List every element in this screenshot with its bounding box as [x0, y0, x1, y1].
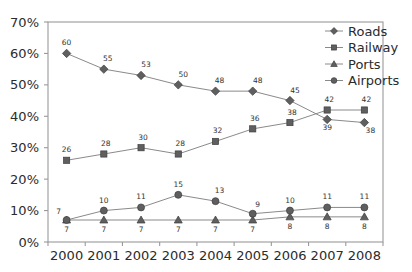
data-point-label: 10	[285, 196, 295, 205]
data-point-label: 55	[103, 54, 113, 63]
square-marker-icon	[138, 145, 144, 151]
data-point-label: 26	[62, 145, 72, 154]
data-point-label: 7	[213, 225, 218, 234]
legend-label: Airports	[348, 73, 399, 88]
circle-marker-icon	[331, 78, 337, 84]
diamond-marker-icon	[174, 81, 182, 89]
data-point-label: 48	[253, 76, 263, 85]
square-marker-icon	[250, 126, 256, 132]
y-tick-label: 40%	[10, 109, 39, 124]
circle-marker-icon	[286, 207, 293, 214]
square-marker-icon	[175, 151, 181, 157]
legend-item-railway[interactable]: Railway	[325, 40, 399, 55]
data-point-label: 42	[362, 95, 372, 104]
data-point-label: 9	[255, 200, 260, 209]
x-tick-label: 2007	[311, 248, 344, 263]
data-point-label: 11	[360, 192, 370, 201]
diamond-marker-icon	[286, 96, 294, 104]
data-point-label: 45	[290, 86, 300, 95]
data-point-label: 38	[366, 126, 376, 135]
data-point-label: 11	[322, 192, 332, 201]
data-point-label: 36	[250, 114, 260, 123]
square-marker-icon	[287, 119, 293, 125]
data-point-label: 53	[141, 60, 151, 69]
data-point-label: 50	[179, 70, 189, 79]
y-tick-label: 70%	[10, 15, 39, 30]
data-point-label: 28	[176, 139, 186, 148]
data-point-label: 11	[136, 192, 146, 201]
x-tick-label: 2006	[273, 248, 306, 263]
legend-item-roads[interactable]: Roads	[325, 24, 388, 39]
diamond-marker-icon	[323, 115, 331, 123]
y-tick-label: 20%	[10, 172, 39, 187]
data-point-label: 7	[176, 225, 181, 234]
x-tick-label: 2002	[125, 248, 158, 263]
data-point-label: 60	[62, 38, 72, 47]
circle-marker-icon	[249, 210, 256, 217]
y-tick-label: 0%	[18, 235, 39, 250]
x-tick-label: 2008	[348, 248, 381, 263]
diamond-marker-icon	[249, 87, 257, 95]
chart-legend: RoadsRailwayPortsAirports	[325, 24, 399, 89]
data-point-label: 13	[215, 186, 225, 195]
y-tick-label: 30%	[10, 140, 39, 155]
square-marker-icon	[64, 157, 70, 163]
data-point-label: 42	[324, 95, 334, 104]
y-tick-label: 10%	[10, 203, 39, 218]
data-point-label: 8	[362, 222, 367, 231]
data-point-label: 15	[174, 180, 184, 189]
data-point-label: 38	[287, 108, 297, 117]
y-axis-tick-labels: 0%10%20%30%40%50%60%70%	[10, 15, 39, 250]
data-point-label: 7	[56, 207, 61, 216]
x-tick-label: 2001	[87, 248, 120, 263]
circle-marker-icon	[138, 204, 145, 211]
data-point-label: 28	[101, 139, 111, 148]
x-tick-label: 2003	[162, 248, 195, 263]
x-tick-label: 2000	[50, 248, 83, 263]
data-point-label: 7	[64, 225, 69, 234]
data-point-label: 30	[138, 133, 148, 142]
x-tick-label: 2005	[236, 248, 269, 263]
diamond-marker-icon	[100, 65, 108, 73]
circle-marker-icon	[175, 191, 182, 198]
circle-marker-icon	[100, 207, 107, 214]
circle-marker-icon	[212, 198, 219, 205]
legend-label: Ports	[348, 57, 381, 72]
data-point-label: 7	[139, 225, 144, 234]
diamond-marker-icon	[137, 71, 145, 79]
square-marker-icon	[331, 45, 336, 50]
triangle-marker-icon	[360, 213, 368, 220]
circle-marker-icon	[324, 204, 331, 211]
diamond-marker-icon	[62, 49, 70, 57]
triangle-marker-icon	[323, 213, 331, 220]
x-axis-tick-labels: 200020012002200320042005200620072008	[50, 248, 381, 263]
square-marker-icon	[212, 138, 218, 144]
square-marker-icon	[324, 107, 330, 113]
line-chart: 0%10%20%30%40%50%60%70% 2000200120022003…	[0, 0, 412, 272]
data-point-label: 32	[213, 126, 223, 135]
legend-item-airports[interactable]: Airports	[325, 73, 399, 88]
data-point-label: 39	[322, 123, 332, 132]
data-point-label: 7	[101, 225, 106, 234]
diamond-marker-icon	[331, 28, 338, 35]
data-point-label: 48	[215, 76, 225, 85]
diamond-marker-icon	[211, 87, 219, 95]
data-point-label: 10	[99, 196, 109, 205]
x-tick-label: 2004	[199, 248, 232, 263]
chart-canvas: 0%10%20%30%40%50%60%70% 2000200120022003…	[0, 0, 412, 272]
data-point-label: 7	[250, 225, 255, 234]
y-tick-label: 50%	[10, 77, 39, 92]
circle-marker-icon	[361, 204, 368, 211]
square-marker-icon	[361, 107, 367, 113]
y-tick-label: 60%	[10, 46, 39, 61]
legend-label: Roads	[348, 24, 388, 39]
data-point-label: 8	[288, 222, 293, 231]
legend-label: Railway	[348, 40, 399, 55]
circle-marker-icon	[63, 217, 70, 224]
data-point-label: 8	[325, 222, 330, 231]
series-ports	[63, 213, 369, 223]
legend-item-ports[interactable]: Ports	[325, 57, 381, 72]
square-marker-icon	[101, 151, 107, 157]
